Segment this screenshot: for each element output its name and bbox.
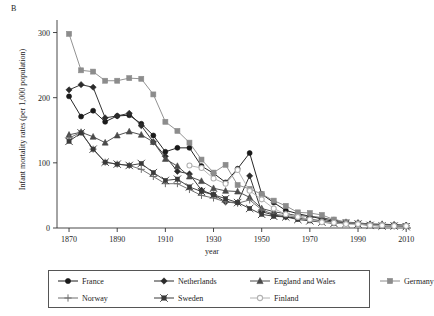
y-axis-label: Infant mortality rates (per 1,000 popula…	[18, 25, 27, 215]
chart-canvas	[0, 0, 424, 262]
legend-marker-circle-filled-icon	[57, 275, 79, 287]
marker-circle-open	[199, 166, 204, 171]
marker-circle-open	[271, 206, 276, 211]
series-norway	[66, 129, 410, 230]
marker-square	[319, 212, 324, 217]
chart-plot-area: Infant mortality rates (per 1,000 popula…	[0, 0, 424, 262]
marker-square	[91, 69, 96, 74]
legend-item-sweden[interactable]: Sweden	[153, 290, 203, 306]
marker-circle	[79, 114, 84, 119]
legend-item-france[interactable]: France	[57, 273, 104, 289]
y-axis-tick-label: 300	[18, 28, 50, 37]
series-line	[69, 34, 406, 226]
x-axis-tick-label: 1970	[302, 235, 318, 244]
x-axis-tick-label: 1910	[157, 235, 173, 244]
marker-triangle	[174, 163, 180, 169]
marker-circle-open	[404, 224, 409, 229]
marker-square	[127, 76, 132, 81]
series-sweden	[65, 129, 410, 230]
marker-diamond	[66, 87, 72, 93]
legend-marker-circle-open-icon	[249, 292, 271, 304]
marker-square	[271, 198, 276, 203]
legend-item-finland[interactable]: Finland	[249, 290, 298, 306]
marker-plus	[138, 166, 145, 173]
legend-marker-diamond-filled-icon	[153, 275, 175, 287]
y-axis-tick-label: 100	[18, 158, 50, 167]
x-axis-tick-label: 1990	[350, 235, 366, 244]
marker-circle-open	[257, 295, 262, 300]
legend-label: Sweden	[178, 294, 203, 303]
marker-x-square	[246, 205, 253, 212]
x-axis-tick-label: 1950	[254, 235, 270, 244]
legend-marker-x-square-icon	[153, 292, 175, 304]
series-finland	[187, 163, 409, 229]
y-axis-tick-label: 0	[18, 224, 50, 233]
legend-label: Netherlands	[178, 277, 217, 286]
marker-circle	[151, 133, 156, 138]
series-germany	[67, 31, 409, 228]
marker-circle-open	[247, 188, 252, 193]
legend-label: Finland	[274, 294, 298, 303]
y-axis-tick-label: 200	[18, 93, 50, 102]
marker-circle-open	[223, 181, 228, 186]
x-axis-tick-label: 1870	[61, 235, 77, 244]
marker-square	[223, 162, 228, 167]
marker-circle-open	[259, 197, 264, 202]
x-axis-tick-label: 1930	[206, 235, 222, 244]
marker-square	[187, 140, 192, 145]
legend-item-norway[interactable]: Norway	[57, 290, 108, 306]
chart-legend: FranceNetherlandsEngland and WalesGerman…	[48, 270, 370, 308]
marker-square	[163, 119, 168, 124]
legend-label: Germany	[404, 277, 434, 286]
marker-circle-open	[235, 168, 240, 173]
marker-circle-open	[295, 214, 300, 219]
legend-row: FranceNetherlandsEngland and WalesGerman…	[49, 273, 369, 289]
marker-circle-open	[343, 222, 348, 227]
marker-plus	[64, 294, 71, 301]
legend-item-germany[interactable]: Germany	[379, 273, 434, 289]
marker-triangle	[102, 139, 108, 145]
marker-square	[115, 78, 120, 83]
marker-circle	[67, 94, 72, 99]
series-line	[69, 132, 406, 226]
marker-square	[67, 31, 72, 36]
marker-circle-open	[380, 223, 385, 228]
marker-circle	[187, 145, 192, 150]
marker-square	[283, 203, 288, 208]
marker-square	[259, 192, 264, 197]
marker-circle-open	[319, 220, 324, 225]
marker-diamond	[247, 173, 253, 179]
series-line	[69, 132, 406, 226]
marker-circle-open	[331, 220, 336, 225]
marker-square	[211, 170, 216, 175]
legend-item-england-and-wales[interactable]: England and Wales	[249, 273, 335, 289]
marker-diamond	[114, 113, 120, 119]
marker-square	[235, 182, 240, 187]
marker-circle-open	[211, 176, 216, 181]
marker-square	[139, 76, 144, 81]
marker-circle-open	[368, 223, 373, 228]
legend-marker-triangle-filled-icon	[249, 275, 271, 287]
marker-circle-open	[392, 224, 397, 229]
marker-square	[387, 278, 392, 283]
marker-square	[199, 157, 204, 162]
marker-square	[307, 211, 312, 216]
legend-item-netherlands[interactable]: Netherlands	[153, 273, 217, 289]
marker-circle	[247, 151, 252, 156]
legend-marker-plus-icon	[57, 292, 79, 304]
series-line	[69, 133, 406, 227]
marker-diamond	[90, 84, 96, 90]
marker-circle	[91, 108, 96, 113]
marker-circle-open	[307, 217, 312, 222]
marker-square	[151, 92, 156, 97]
marker-circle-open	[283, 212, 288, 217]
marker-circle	[65, 278, 70, 283]
marker-circle-open	[187, 163, 192, 168]
legend-label: France	[82, 277, 104, 286]
x-axis-tick-label: 2010	[398, 235, 414, 244]
marker-square	[79, 68, 84, 73]
marker-diamond	[161, 278, 167, 284]
x-axis-label: year	[0, 247, 424, 256]
legend-row: NorwaySwedenFinland	[49, 290, 369, 306]
